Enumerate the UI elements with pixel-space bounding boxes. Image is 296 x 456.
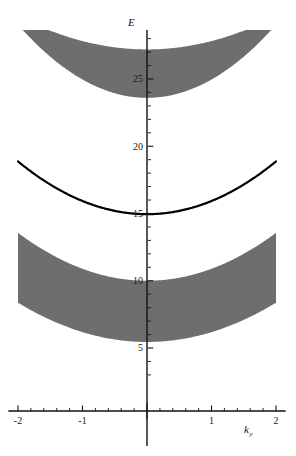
y-tick-label: 20 bbox=[133, 141, 143, 152]
y-tick-label: 25 bbox=[133, 73, 143, 84]
x-tick-label: -1 bbox=[78, 415, 86, 426]
y-tick-label: 5 bbox=[138, 342, 143, 353]
chart-figure: 510152025-2-112 E ky bbox=[0, 0, 296, 456]
x-tick-label: 1 bbox=[209, 415, 214, 426]
x-tick-label: 2 bbox=[274, 415, 279, 426]
y-tick-label: 10 bbox=[133, 275, 143, 286]
y-tick-label: 15 bbox=[133, 208, 143, 219]
x-tick-label: -2 bbox=[14, 415, 22, 426]
band-structure-chart: 510152025-2-112 E ky bbox=[0, 0, 296, 456]
y-axis-title: E bbox=[127, 16, 135, 28]
